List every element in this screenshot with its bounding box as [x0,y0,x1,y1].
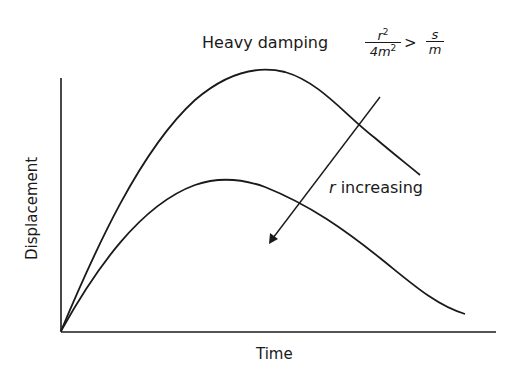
x-axis-label: Time [256,345,293,363]
r-increasing-arrow [273,97,380,238]
lhs-denominator: 4m2 [365,43,401,58]
rhs-denominator: m [426,42,444,56]
curve-upper [61,70,420,331]
arrowhead-icon [269,233,278,244]
lhs-fraction: r2 4m2 [365,28,401,58]
title-heavy-damping: Heavy damping [202,33,328,52]
rhs-numerator: s [426,28,444,42]
r-increasing-label: r increasing [329,178,423,197]
rhs-fraction: s m [426,28,444,56]
lhs-numerator: r2 [365,28,401,43]
y-axis-label: Displacement [23,157,41,260]
greater-than-sign: > [404,34,417,52]
damping-diagram: Heavy damping r2 4m2 > s m Displacement … [0,0,516,384]
plot-svg [0,0,516,384]
